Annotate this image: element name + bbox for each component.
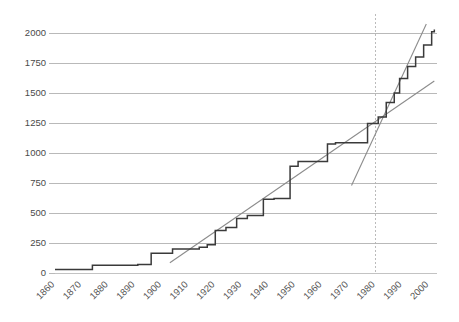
- x-tick-label: 1910: [167, 279, 190, 302]
- chart-canvas: 025050075010001250150017502000 186018701…: [0, 0, 459, 322]
- x-tick-label: 1960: [301, 279, 324, 302]
- y-tick-label: 2000: [25, 27, 46, 38]
- x-tick-label: 1920: [194, 279, 217, 302]
- early-trend: [170, 81, 434, 263]
- x-tick-label: 1970: [328, 279, 351, 302]
- x-tick-label: 1900: [141, 279, 164, 302]
- y-tick-label: 750: [30, 177, 46, 188]
- x-tick-label: 2000: [408, 279, 431, 302]
- x-tick-label: 1880: [87, 279, 110, 302]
- y-tick-label: 500: [30, 207, 46, 218]
- x-tick-label: 1930: [221, 279, 244, 302]
- x-tick-label: 1870: [60, 279, 83, 302]
- x-tick-label: 1950: [274, 279, 297, 302]
- y-tick-label: 250: [30, 237, 46, 248]
- gridlines: [49, 33, 437, 273]
- y-tick-label: 1250: [25, 117, 46, 128]
- x-axis-tick-labels: 1860187018801890190019101920193019401950…: [34, 279, 431, 302]
- x-tick-label: 1940: [247, 279, 270, 302]
- step-chart-figure: 025050075010001250150017502000 186018701…: [0, 0, 459, 322]
- late-trend: [352, 24, 427, 185]
- x-tick-label: 1860: [34, 279, 57, 302]
- x-tick-label: 1890: [114, 279, 137, 302]
- x-tick-label: 1980: [354, 279, 377, 302]
- step-line-cumulative-step: [55, 29, 434, 269]
- y-tick-label: 0: [41, 267, 46, 278]
- y-axis-tick-labels: 025050075010001250150017502000: [25, 27, 46, 278]
- trend-lines: [170, 24, 434, 263]
- x-tick-label: 1990: [381, 279, 404, 302]
- y-tick-label: 1750: [25, 57, 46, 68]
- data-series: [55, 29, 434, 269]
- y-tick-label: 1000: [25, 147, 46, 158]
- y-tick-label: 1500: [25, 87, 46, 98]
